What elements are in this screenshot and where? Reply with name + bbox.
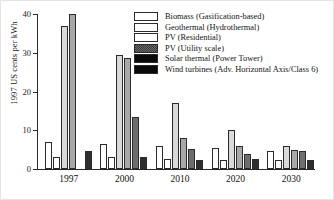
bar-1997-series-5 bbox=[85, 151, 92, 169]
bar-2030-series-2 bbox=[283, 146, 290, 169]
bar-2030-series-1 bbox=[275, 160, 282, 169]
legend-item-4: Solar thermal (Power Tower) bbox=[134, 54, 318, 63]
bar-2020-series-2 bbox=[228, 130, 235, 169]
y-axis-tick-label: 40 bbox=[23, 10, 32, 19]
legend-swatch-icon bbox=[134, 44, 158, 53]
bar-2030-series-0 bbox=[267, 151, 274, 169]
bar-chart-figure: 1997 US cents per kWh 010203040 19972000… bbox=[0, 0, 334, 200]
bar-2010-series-3 bbox=[180, 138, 187, 169]
bar-1997-series-2 bbox=[61, 26, 68, 169]
legend-swatch-icon bbox=[134, 12, 158, 21]
bar-group-1997 bbox=[45, 14, 92, 169]
y-axis-tick-label: 0 bbox=[27, 165, 31, 174]
bar-2020-series-5 bbox=[252, 159, 259, 169]
legend-item-1: Geothermal (Hydrothermal) bbox=[134, 23, 318, 32]
legend-swatch-icon bbox=[134, 65, 158, 74]
bar-2030-series-4 bbox=[299, 151, 306, 169]
x-axis-tick-label: 2030 bbox=[282, 174, 301, 184]
bar-2010-series-2 bbox=[172, 103, 179, 169]
bar-1997-series-0 bbox=[45, 142, 52, 169]
legend-item-5: Wind turbines (Adv. Horizontal Axis/Clas… bbox=[134, 65, 318, 74]
bar-2020-series-1 bbox=[220, 160, 227, 169]
legend-label: Solar thermal (Power Tower) bbox=[165, 54, 263, 63]
legend-swatch-icon bbox=[134, 33, 158, 42]
bar-2010-series-0 bbox=[156, 146, 163, 169]
legend-label: Wind turbines (Adv. Horizontal Axis/Clas… bbox=[165, 65, 318, 74]
legend-label: Geothermal (Hydrothermal) bbox=[165, 23, 259, 32]
bar-2010-series-4 bbox=[188, 149, 195, 169]
legend-swatch-icon bbox=[134, 23, 158, 32]
legend-item-3: PV (Utility scale) bbox=[134, 44, 318, 53]
bar-2020-series-3 bbox=[236, 146, 243, 169]
bar-1997-series-1 bbox=[53, 157, 60, 169]
x-axis-tick-label: 2020 bbox=[226, 174, 245, 184]
chart-legend: Biomass (Gasification-based)Geothermal (… bbox=[134, 12, 318, 74]
bar-2000-series-5 bbox=[140, 157, 147, 169]
x-axis-tick-label: 1997 bbox=[59, 174, 78, 184]
legend-label: Biomass (Gasification-based) bbox=[165, 12, 264, 21]
bar-2010-series-5 bbox=[196, 160, 203, 169]
bar-2010-series-1 bbox=[164, 159, 171, 169]
bar-2020-series-4 bbox=[244, 154, 251, 170]
y-axis-tick-label: 10 bbox=[23, 126, 32, 135]
bar-2030-series-3 bbox=[291, 150, 298, 169]
x-axis-tick-label: 2010 bbox=[171, 174, 190, 184]
bar-1997-series-3 bbox=[69, 14, 76, 169]
bar-2000-series-3 bbox=[124, 58, 131, 169]
y-axis-tick-label: 30 bbox=[23, 49, 32, 58]
legend-swatch-icon bbox=[134, 54, 158, 63]
bar-2000-series-2 bbox=[116, 55, 123, 169]
bar-2020-series-0 bbox=[212, 148, 219, 169]
bar-2000-series-0 bbox=[100, 144, 107, 169]
y-axis-title: 1997 US cents per kWh bbox=[9, 0, 19, 133]
x-axis-tick-label: 2000 bbox=[115, 174, 134, 184]
legend-label: PV (Residential) bbox=[165, 33, 221, 42]
legend-item-2: PV (Residential) bbox=[134, 33, 318, 42]
bar-2030-series-5 bbox=[307, 160, 314, 169]
y-axis-tick-label: 20 bbox=[23, 87, 32, 96]
bar-2000-series-4 bbox=[132, 117, 139, 169]
bar-2000-series-1 bbox=[108, 157, 115, 169]
legend-label: PV (Utility scale) bbox=[165, 44, 224, 53]
legend-item-0: Biomass (Gasification-based) bbox=[134, 12, 318, 21]
